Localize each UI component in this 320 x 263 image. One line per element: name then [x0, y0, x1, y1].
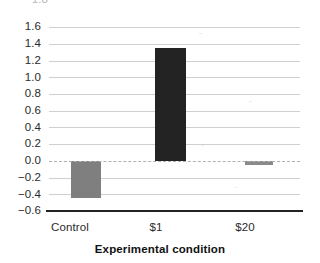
gridline-1.6 [49, 27, 300, 28]
x-axis-tick-control: Control [26, 221, 114, 233]
y-axis-tick-1.2: 1.2 [1, 55, 41, 67]
x-axis-tick-1-dollar: $1 [117, 221, 195, 233]
y-axis-tick-0.2: 0.2 [1, 138, 41, 150]
y-axis-tick-minus-0.4: −0.4 [1, 189, 41, 201]
y-axis-tick-minus-0.6: −0.6 [1, 205, 41, 217]
y-axis-tick-1.4: 1.4 [1, 38, 41, 50]
y-axis-tick-1.0: 1.0 [1, 72, 41, 84]
plot-area [49, 27, 300, 211]
x-axis-line [46, 210, 303, 212]
y-axis-tick-0.6: 0.6 [1, 105, 41, 117]
y-axis-tick-1.6: 1.6 [1, 21, 41, 33]
x-axis-title: Experimental condition [0, 243, 320, 255]
bar-chart: 1.8 1.6 1.4 1.2 1.0 0.8 0.6 0.4 0.2 0.0 … [0, 0, 320, 263]
x-axis-tick-20-dollar: $20 [206, 221, 284, 233]
zero-reference-line [49, 161, 300, 162]
y-axis-tick-0.0: 0.0 [1, 155, 41, 167]
y-axis-tick-0.8: 0.8 [1, 88, 41, 100]
bar-control [71, 161, 101, 199]
y-axis-clipped-tick-label: 1.8 [18, 0, 48, 7]
y-axis-tick-minus-0.2: −0.2 [1, 172, 41, 184]
bar-1-dollar [155, 48, 186, 161]
gridline-1.4 [49, 44, 300, 45]
y-axis-tick-0.4: 0.4 [1, 122, 41, 134]
